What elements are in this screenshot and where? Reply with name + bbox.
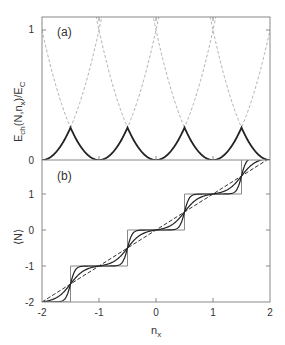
x-tick-m1: -1 bbox=[95, 307, 104, 318]
parabola-curve bbox=[42, 0, 270, 160]
yb-tick-m1: -1 bbox=[25, 261, 34, 272]
x-tick-1: 1 bbox=[210, 307, 216, 318]
parabola-curve bbox=[42, 0, 270, 160]
ya-tick-1: 1 bbox=[28, 24, 34, 35]
panel-a bbox=[42, 0, 270, 160]
x-tick-2: 2 bbox=[267, 307, 273, 318]
panel-b-label: (b) bbox=[57, 169, 72, 183]
yb-tick-0: 0 bbox=[28, 225, 34, 236]
panel-a-label: (a) bbox=[57, 25, 72, 39]
x-axis-label: nx bbox=[151, 324, 161, 339]
y-axis-label-a: Ech(N,nx)/EC bbox=[12, 81, 27, 142]
high-temperature-line bbox=[42, 158, 270, 302]
ground-state-curve bbox=[42, 128, 270, 161]
parabola-curve bbox=[42, 0, 270, 160]
parabola-curve bbox=[42, 0, 270, 160]
x-tick-m2: -2 bbox=[38, 307, 47, 318]
yb-tick-m2: -2 bbox=[25, 297, 34, 308]
ya-tick-0: 0 bbox=[28, 155, 34, 166]
x-tick-0: 0 bbox=[153, 307, 159, 318]
yb-tick-1: 1 bbox=[28, 189, 34, 200]
y-axis-label-b: ⟨N⟩ bbox=[12, 229, 24, 245]
figure: (a) (b) 1 0 1 0 -1 -2 -2 -1 0 1 2 nx Ech… bbox=[0, 0, 285, 345]
parabola-curve bbox=[42, 0, 270, 160]
panel-b bbox=[42, 158, 270, 302]
